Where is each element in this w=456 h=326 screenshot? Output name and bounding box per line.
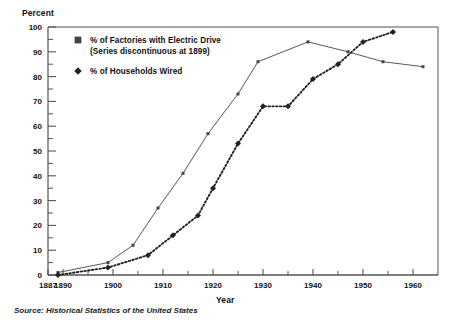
y-tick-label: 100 [8,23,42,32]
x-axis-title: Year [216,295,234,305]
y-tick-label: 30 [8,196,42,205]
y-tick-label: 20 [8,221,42,230]
legend-entry-households-label: % of Households Wired [90,67,182,76]
legend-entry-factories-sublabel: (Series discontinuous at 1899) [90,47,210,56]
legend-entry-factories-label: % of Factories with Electric Drive [90,36,221,45]
y-tick-label: 90 [8,47,42,56]
x-tick-label: 1930 [254,281,272,290]
chart-container: Percent 0102030405060708090100 188718901… [0,0,456,326]
x-tick-label: 1900 [104,281,122,290]
axis-tick-marks [48,27,413,275]
plot-frame [48,27,438,275]
y-tick-label: 50 [8,147,42,156]
x-tick-label: 1940 [304,281,322,290]
y-tick-label: 70 [8,97,42,106]
y-tick-label: 60 [8,122,42,131]
source-note: Source: Historical Statistics of the Uni… [14,306,198,315]
y-tick-label: 40 [8,171,42,180]
x-tick-label: 1920 [204,281,222,290]
y-axis-title: Percent [22,8,54,18]
x-tick-label: 1960 [404,281,422,290]
y-tick-label: 10 [8,246,42,255]
x-tick-label: 1890 [54,281,72,290]
chart-plot-area [0,0,456,326]
x-tick-label: 1910 [154,281,172,290]
x-tick-label: 1950 [354,281,372,290]
y-tick-label: 0 [8,271,42,280]
y-tick-label: 80 [8,72,42,81]
